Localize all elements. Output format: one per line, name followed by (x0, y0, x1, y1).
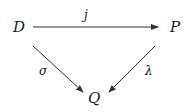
commutative-diagram: D P Q j σ λ (0, 0, 189, 112)
node-q: Q (88, 89, 100, 107)
node-p: P (169, 18, 181, 36)
label-lambda: λ (144, 64, 153, 78)
node-d: D (12, 18, 25, 36)
label-j: j (81, 8, 88, 22)
label-sigma: σ (39, 64, 48, 78)
